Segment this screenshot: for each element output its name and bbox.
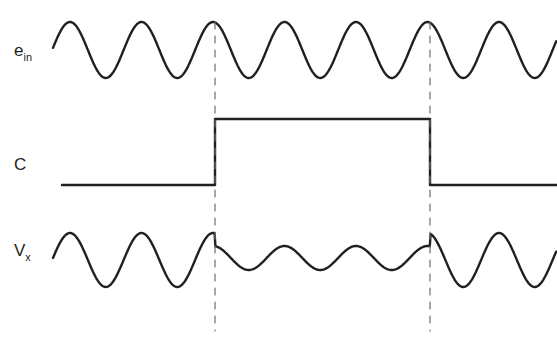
label-input-signal: ein bbox=[14, 41, 32, 63]
label-input-subscript: in bbox=[23, 51, 32, 63]
timing-diagram: ein C Vx bbox=[0, 0, 557, 344]
trace-V-x bbox=[53, 233, 556, 287]
figure-canvas: ein C Vx bbox=[0, 0, 557, 344]
label-control-base: C bbox=[14, 155, 26, 174]
label-control-signal: C bbox=[14, 155, 26, 174]
waveform-traces bbox=[53, 22, 557, 287]
label-output-base: V bbox=[14, 241, 26, 260]
trace-C bbox=[62, 119, 557, 185]
label-output-subscript: x bbox=[25, 251, 31, 263]
trace-e-in bbox=[53, 22, 556, 78]
label-input-base: e bbox=[14, 41, 23, 60]
label-output-signal: Vx bbox=[14, 241, 31, 263]
transition-markers bbox=[215, 22, 430, 331]
